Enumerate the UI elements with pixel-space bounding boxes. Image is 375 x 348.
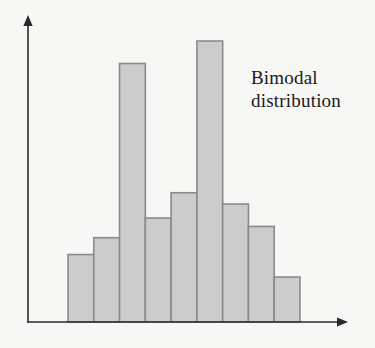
bar-7 (223, 204, 249, 322)
x-axis-arrowhead (337, 317, 348, 326)
bar-4 (145, 218, 171, 322)
bar-5 (171, 193, 197, 322)
bar-1 (68, 255, 94, 322)
bimodal-distribution-label: Bimodal distribution (251, 66, 371, 112)
bar-9 (274, 277, 300, 322)
chart-canvas: Bimodal distribution (0, 0, 375, 348)
y-axis-arrowhead (23, 15, 32, 26)
bar-3 (120, 63, 146, 322)
bar-8 (248, 226, 274, 322)
bar-6 (197, 41, 223, 322)
bar-2 (94, 238, 120, 322)
bimodal-histogram-chart (0, 0, 375, 348)
